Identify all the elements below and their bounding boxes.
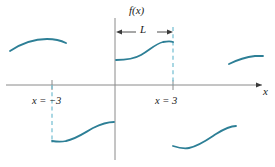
curve-segment-upper-right xyxy=(229,56,263,64)
x-axis-label: x xyxy=(263,86,268,97)
period-label: L xyxy=(140,24,146,35)
curve-segment-lower-right xyxy=(173,126,236,148)
dimension-arrowhead-left xyxy=(116,29,122,34)
periodic-function-figure: f(x) x L x = −3 x = 3 xyxy=(0,0,275,167)
dimension-arrowhead-right xyxy=(167,29,173,34)
right-boundary-label: x = 3 xyxy=(155,96,177,107)
left-boundary-label: x = −3 xyxy=(32,96,61,107)
graph-canvas xyxy=(0,0,275,167)
x-axis-arrowhead xyxy=(256,82,262,87)
function-curve xyxy=(10,39,263,148)
curve-segment-lower-left xyxy=(52,122,114,142)
curve-segment-upper-main xyxy=(116,41,173,60)
curve-segment-upper-left xyxy=(10,39,66,51)
y-axis-label: f(x) xyxy=(129,5,144,16)
x-axis xyxy=(6,82,262,87)
